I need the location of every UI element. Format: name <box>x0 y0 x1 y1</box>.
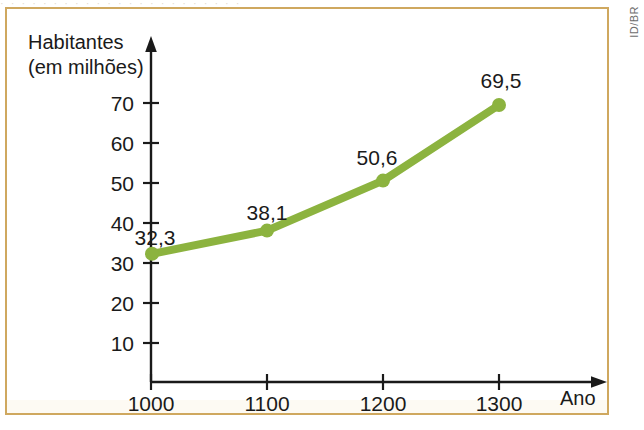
data-label-69-5: 69,5 <box>466 69 536 93</box>
data-point-marker <box>376 174 390 188</box>
y-axis <box>145 36 157 382</box>
y-tick-label-10: 10 <box>90 332 134 356</box>
x-tick-label-1100: 1100 <box>227 392 307 416</box>
data-point-marker <box>260 224 274 238</box>
y-axis-title-line1: Habitantes <box>28 30 144 55</box>
x-tick-label-1300: 1300 <box>459 392 539 416</box>
x-tick-label-1000: 1000 <box>111 392 191 416</box>
data-point-marker <box>492 98 506 112</box>
data-label-50-6: 50,6 <box>342 146 412 170</box>
x-axis-title: Ano <box>560 386 596 411</box>
data-series-line <box>152 105 499 254</box>
data-label-38-1: 38,1 <box>232 201 302 225</box>
y-axis-title: Habitantes (em milhões) <box>28 30 144 80</box>
x-axis <box>151 376 607 388</box>
y-tick-label-60: 60 <box>90 132 134 156</box>
y-tick-label-20: 20 <box>90 292 134 316</box>
chart-page: · · · · · · · · · · · · · · · · · · · · … <box>0 0 644 430</box>
data-label-32-3: 32,3 <box>120 226 190 250</box>
y-tick-label-30: 30 <box>90 252 134 276</box>
x-tick-label-1200: 1200 <box>343 392 423 416</box>
y-tick-label-50: 50 <box>90 172 134 196</box>
data-point-markers <box>145 98 506 261</box>
y-axis-title-line2: (em milhões) <box>28 55 144 80</box>
y-tick-label-70: 70 <box>90 92 134 116</box>
